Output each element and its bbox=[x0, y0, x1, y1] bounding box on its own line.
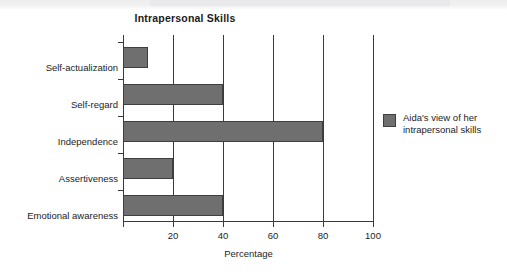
y-tick-0 bbox=[118, 42, 123, 43]
x-tick-20 bbox=[173, 222, 174, 227]
legend-swatch-series-1 bbox=[383, 114, 396, 127]
bar-emotional-awareness bbox=[123, 195, 223, 216]
x-tick-100 bbox=[373, 222, 374, 227]
x-axis-title: Percentage bbox=[123, 248, 374, 259]
bar-independence bbox=[123, 121, 323, 142]
y-tick-3 bbox=[118, 153, 123, 154]
bar-self-actualization bbox=[123, 47, 148, 68]
plot-area bbox=[123, 35, 373, 222]
category-label-self-regard: Self-regard bbox=[6, 99, 118, 110]
legend-label-line-1: Aida's view of her bbox=[403, 112, 481, 124]
x-tick-80 bbox=[323, 222, 324, 227]
x-tick-0 bbox=[123, 222, 124, 227]
chart-legend: Aida's view of her intrapersonal skills bbox=[383, 112, 481, 136]
x-tick-40 bbox=[223, 222, 224, 227]
x-tick-60 bbox=[273, 222, 274, 227]
y-tick-1 bbox=[118, 79, 123, 80]
x-tick-label-40: 40 bbox=[203, 230, 243, 241]
category-label-assertiveness: Assertiveness bbox=[6, 173, 118, 184]
category-label-emotional-awareness: Emotional awareness bbox=[6, 210, 118, 221]
bar-assertiveness bbox=[123, 158, 173, 179]
category-label-independence: Independence bbox=[6, 136, 118, 147]
x-tick-label-100: 100 bbox=[353, 230, 393, 241]
category-axis-labels: Self-actualization Self-regard Independe… bbox=[0, 0, 118, 272]
x-tick-label-80: 80 bbox=[303, 230, 343, 241]
x-tick-label-60: 60 bbox=[253, 230, 293, 241]
bar-self-regard bbox=[123, 84, 223, 105]
scan-artifact-band-inner bbox=[150, 0, 450, 6]
category-label-self-actualization: Self-actualization bbox=[6, 62, 118, 73]
y-tick-2 bbox=[118, 116, 123, 117]
gridline-100 bbox=[373, 35, 374, 222]
y-tick-4 bbox=[118, 190, 123, 191]
x-tick-label-20: 20 bbox=[153, 230, 193, 241]
legend-label-series-1: Aida's view of her intrapersonal skills bbox=[403, 112, 481, 136]
legend-label-line-2: intrapersonal skills bbox=[403, 124, 481, 136]
chart-page: Intrapersonal Skills Self-actualization … bbox=[0, 0, 507, 272]
gridline-80 bbox=[323, 35, 324, 222]
